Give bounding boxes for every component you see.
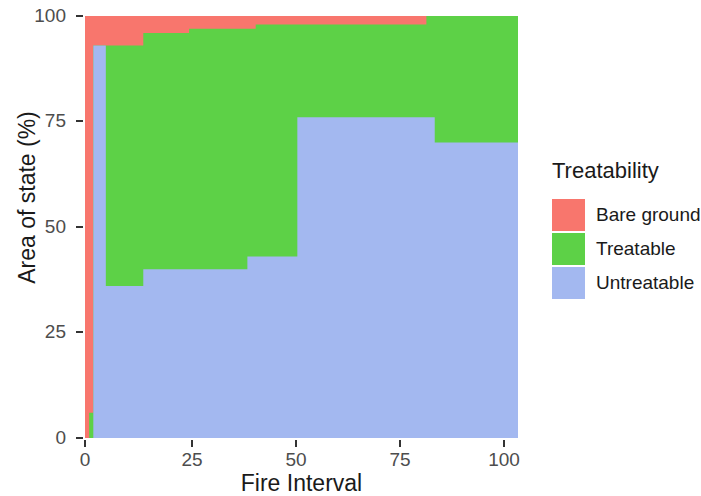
legend-swatch-bare-ground <box>552 199 585 231</box>
y-tick-mark-0 <box>76 437 83 439</box>
x-tick-mark-50 <box>295 440 297 447</box>
y-tick-label-100: 100 <box>18 5 66 27</box>
legend-item-treatable[interactable]: Treatable <box>552 232 701 266</box>
legend-swatch-treatable <box>552 233 585 265</box>
y-tick-mark-100 <box>76 15 83 17</box>
x-tick-label-25: 25 <box>181 449 202 471</box>
legend-swatch-untreatable <box>552 267 585 299</box>
x-tick-mark-100 <box>503 440 505 447</box>
x-axis-title: Fire Interval <box>85 470 518 496</box>
x-tick-label-100: 100 <box>488 449 520 471</box>
x-tick-label-50: 50 <box>285 449 306 471</box>
y-tick-mark-50 <box>76 226 83 228</box>
x-tick-label-0: 0 <box>80 449 91 471</box>
y-tick-mark-25 <box>76 331 83 333</box>
legend-label-untreatable: Untreatable <box>596 272 694 294</box>
area-layers <box>85 16 518 438</box>
legend-title: Treatability <box>552 158 701 184</box>
legend-item-bare-ground[interactable]: Bare ground <box>552 198 701 232</box>
y-tick-mark-75 <box>76 120 83 122</box>
legend-label-bare-ground: Bare ground <box>596 204 701 226</box>
x-tick-mark-0 <box>84 440 86 447</box>
x-tick-mark-75 <box>399 440 401 447</box>
y-tick-label-0: 0 <box>18 427 66 449</box>
legend-item-untreatable[interactable]: Untreatable <box>552 266 701 300</box>
legend: Treatability Bare ground Treatable Untre… <box>552 158 701 300</box>
x-tick-mark-25 <box>191 440 193 447</box>
y-axis-title: Area of state (%) <box>14 68 41 328</box>
plot-area <box>85 16 518 438</box>
legend-label-treatable: Treatable <box>596 238 676 260</box>
stacked-area-plot <box>85 16 518 438</box>
x-tick-label-75: 75 <box>389 449 410 471</box>
